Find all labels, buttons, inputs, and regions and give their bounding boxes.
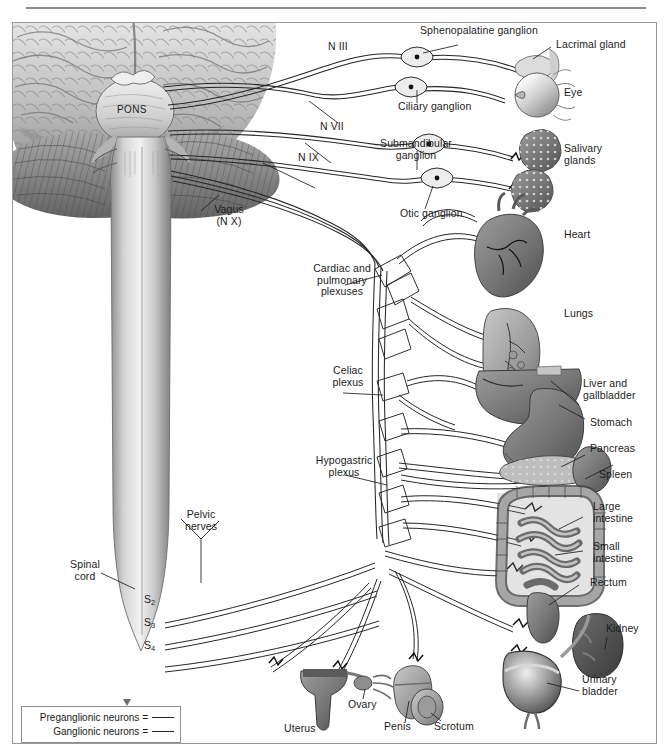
label-pancreas: Pancreas (590, 443, 635, 455)
label-small-intestine: Small intestine (593, 541, 633, 564)
pelvic-nerve-pathways (165, 551, 513, 672)
legend-preganglionic-label: Preganglionic neurons = (40, 712, 148, 723)
legend-ganglionic-row: Ganglionic neurons = (53, 726, 174, 737)
label-lungs: Lungs (564, 308, 593, 320)
vagus-nerve-pathway (171, 171, 419, 547)
label-salivary-glands: Salivary glands (564, 143, 602, 166)
label-n3: N III (328, 41, 348, 53)
pons-label: PONS (117, 104, 147, 116)
preganglionic-line-swatch (152, 717, 174, 718)
label-rectum: Rectum (590, 577, 627, 589)
label-sphenopalatine-ganglion: Sphenopalatine ganglion (420, 25, 538, 37)
label-celiac-plexus: Celiac plexus (313, 365, 383, 388)
label-hypogastric-plexus: Hypogastric plexus (301, 455, 387, 478)
ganglionic-line-swatch (152, 731, 174, 732)
legend-preganglionic-row: Preganglionic neurons = (40, 712, 174, 723)
label-liver-gallbladder: Liver and gallbladder (583, 378, 635, 401)
legend-ganglionic-label: Ganglionic neurons = (53, 726, 148, 737)
label-uterus: Uterus (284, 723, 316, 735)
label-lacrimal-gland: Lacrimal gland (556, 39, 626, 51)
legend-box: Preganglionic neurons = Ganglionic neuro… (21, 706, 181, 743)
label-eye: Eye (564, 87, 582, 99)
label-penis: Penis (384, 721, 411, 733)
heart-artwork (475, 193, 544, 297)
label-segment-s4: S4 (144, 640, 155, 655)
label-segment-s2: S2 (144, 594, 155, 609)
label-pelvic-nerves: Pelvic nerves (176, 509, 226, 532)
label-submandibular-ganglion: Submandibular ganglion (368, 138, 464, 161)
label-n9: N IX (298, 152, 319, 164)
anatomical-diagram-frame: PONS N III N VII N IX Vagus (N X) Spheno… (12, 22, 657, 744)
label-vagus-n10: Vagus (N X) (203, 204, 255, 227)
label-cardiac-pulmonary-plexuses: Cardiac and pulmonary plexuses (301, 263, 383, 298)
label-urinary-bladder: Urinary bladder (582, 674, 618, 697)
label-otic-ganglion: Otic ganglion (400, 208, 463, 220)
label-scrotum: Scrotum (434, 721, 474, 733)
label-n7: N VII (320, 121, 344, 133)
label-ciliary-ganglion: Ciliary ganglion (398, 101, 471, 113)
label-spleen: Spleen (599, 469, 632, 481)
label-kidney: Kidney (606, 623, 639, 635)
label-large-intestine: Large intestine (593, 501, 633, 524)
rectum-artwork (527, 593, 559, 643)
label-segment-s3: S3 (144, 617, 155, 632)
label-ovary: Ovary (348, 699, 377, 711)
label-heart: Heart (564, 229, 590, 241)
figure-canvas: PONS N III N VII N IX Vagus (N X) Spheno… (0, 0, 666, 753)
label-spinal-cord: Spinal cord (61, 559, 109, 582)
legend-pointer-arrow (123, 699, 131, 706)
top-divider-rule (26, 7, 646, 9)
ganglion-swellings (395, 47, 453, 188)
label-stomach: Stomach (590, 417, 632, 429)
ovary-artwork (354, 675, 393, 699)
